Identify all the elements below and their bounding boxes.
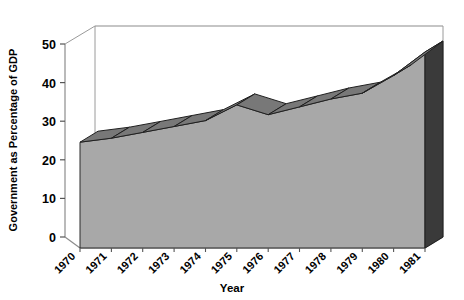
- y-tick-label-30: 30: [42, 115, 56, 129]
- y-axis-title: Government as Percentage of GDP: [7, 49, 19, 232]
- x-axis-title: Year: [220, 282, 245, 294]
- y-tick-label-50: 50: [42, 38, 56, 52]
- y-tick-label-10: 10: [42, 192, 56, 206]
- y-tick-label-40: 40: [42, 77, 56, 91]
- y-tick-label-20: 20: [42, 154, 56, 168]
- chart-canvas: 0 10 20 30 40 50 Government as Percentag…: [0, 0, 464, 300]
- area-right-side-face: [425, 41, 443, 248]
- area-chart: 0 10 20 30 40 50 Government as Percentag…: [0, 0, 464, 300]
- y-tick-label-0: 0: [49, 231, 56, 245]
